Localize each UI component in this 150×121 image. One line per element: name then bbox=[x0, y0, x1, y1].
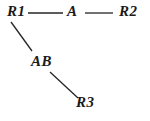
edge-ab-r3 bbox=[50, 72, 78, 98]
node-label-r1: R1 bbox=[7, 4, 25, 19]
relation-lattice-diagram: R1 A R2 AB R3 bbox=[0, 0, 150, 121]
node-label-a: A bbox=[67, 4, 77, 19]
node-label-r2: R2 bbox=[119, 4, 137, 19]
node-label-ab: AB bbox=[31, 54, 52, 69]
node-label-r3: R3 bbox=[76, 95, 94, 110]
edge-r1-ab bbox=[11, 22, 32, 51]
